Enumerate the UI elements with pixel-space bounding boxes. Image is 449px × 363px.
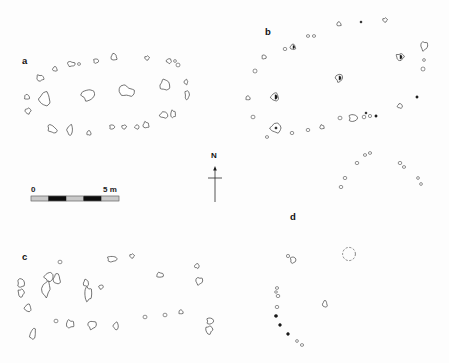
- feature-outline: [276, 294, 280, 297]
- feature-marker: [416, 96, 418, 98]
- feature-outline: [300, 344, 303, 347]
- feature-outline: [398, 161, 402, 164]
- feature-outline: [207, 318, 214, 324]
- feature-outline: [286, 254, 289, 257]
- feature-marker: [365, 112, 367, 114]
- site-plan-figure: a b c d N 0 5 m: [0, 0, 449, 363]
- feature-outline: [368, 152, 371, 155]
- feature-outline: [110, 125, 115, 129]
- feature-outline: [420, 183, 423, 186]
- feature-outline: [265, 136, 268, 139]
- feature-marker: [279, 324, 282, 327]
- feature-outline: [368, 114, 371, 117]
- panel-label-a: a: [22, 55, 28, 66]
- feature-outline: [296, 340, 299, 343]
- feature-outline: [417, 177, 420, 180]
- feature-outline: [349, 115, 358, 122]
- scale-bar-segment: [49, 196, 67, 201]
- feature-center-dot: [275, 127, 277, 129]
- feature-infill: [400, 55, 402, 59]
- feature-outline: [143, 315, 147, 319]
- scale-bar-min-label: 0: [31, 185, 36, 194]
- feature-outline: [363, 154, 366, 157]
- feature-outline: [163, 313, 167, 317]
- figure-background: [0, 0, 449, 363]
- feature-outline: [251, 115, 255, 119]
- feature-outline: [253, 69, 257, 73]
- feature-outline: [246, 96, 250, 100]
- feature-outline: [421, 67, 425, 71]
- scale-bar-segment: [84, 196, 102, 201]
- feature-outline: [283, 47, 287, 50]
- feature-outline: [306, 35, 309, 38]
- feature-outline: [94, 59, 99, 63]
- feature-outline: [68, 61, 76, 66]
- feature-marker: [375, 115, 377, 117]
- feature-outline: [275, 305, 279, 308]
- feature-marker: [274, 315, 277, 318]
- feature-outline: [402, 166, 405, 169]
- feature-outline: [54, 319, 58, 323]
- panel-label-d: d: [290, 211, 296, 222]
- feature-outline: [275, 287, 278, 290]
- feature-outline: [339, 185, 343, 188]
- feature-infill: [275, 95, 277, 100]
- feature-outline: [306, 128, 310, 131]
- feature-marker: [360, 21, 362, 23]
- panel-label-b: b: [265, 26, 271, 37]
- scale-bar-segments: [31, 196, 119, 201]
- feature-outline: [338, 116, 342, 120]
- north-label: N: [211, 151, 217, 160]
- feature-outline: [362, 115, 366, 119]
- scale-bar-segment: [31, 196, 49, 201]
- feature-outline: [179, 310, 183, 314]
- feature-outline: [174, 60, 177, 63]
- feature-outline: [355, 161, 359, 164]
- scale-bar-segment: [66, 196, 84, 201]
- feature-outline: [18, 279, 25, 288]
- feature-outline: [262, 55, 266, 59]
- feature-outline: [58, 260, 62, 264]
- plan-canvas: a b c d N 0 5 m: [0, 0, 449, 363]
- feature-outline: [78, 63, 81, 66]
- feature-outline: [423, 59, 426, 62]
- feature-marker: [287, 333, 290, 336]
- feature-outline: [176, 63, 180, 67]
- feature-outline: [312, 35, 315, 38]
- feature-outline: [343, 176, 347, 179]
- scale-bar-max-label: 5 m: [103, 185, 117, 194]
- feature-outline: [290, 131, 294, 134]
- feature-infill: [293, 45, 295, 48]
- feature-outline: [275, 291, 278, 293]
- panel-label-c: c: [22, 251, 27, 262]
- scale-bar-segment: [101, 196, 119, 201]
